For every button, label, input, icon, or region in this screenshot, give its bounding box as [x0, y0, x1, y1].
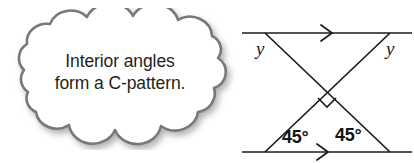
angle-label-45-right: 45°: [335, 126, 361, 144]
angle-label-y-right: y: [386, 39, 394, 58]
angle-label-45-left: 45°: [282, 128, 308, 146]
figure-canvas: Interior angles form a C-pattern. y y 45…: [0, 0, 414, 163]
diagram-svg: [236, 0, 414, 163]
thought-cloud-callout: Interior angles form a C-pattern.: [2, 8, 238, 150]
callout-text: Interior angles form a C-pattern.: [28, 50, 212, 94]
angle-label-y-left: y: [256, 39, 264, 58]
geometry-diagram: y y 45° 45°: [236, 0, 414, 163]
